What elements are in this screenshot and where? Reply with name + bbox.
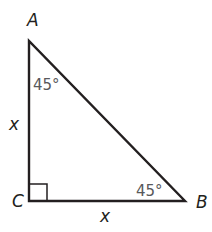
triangle-abc — [29, 41, 185, 201]
side-ac-label: x — [8, 114, 20, 134]
side-cb-label: x — [99, 206, 111, 226]
vertex-c-label: C — [12, 191, 24, 211]
angle-b-label: 45° — [136, 182, 163, 200]
vertex-a-label: A — [26, 10, 39, 30]
triangle-diagram: A C B x x 45° 45° — [0, 0, 212, 232]
right-angle-marker — [29, 184, 47, 201]
vertex-b-label: B — [196, 192, 208, 212]
triangle-figure: A C B x x 45° 45° — [0, 0, 212, 232]
angle-a-label: 45° — [33, 76, 60, 94]
